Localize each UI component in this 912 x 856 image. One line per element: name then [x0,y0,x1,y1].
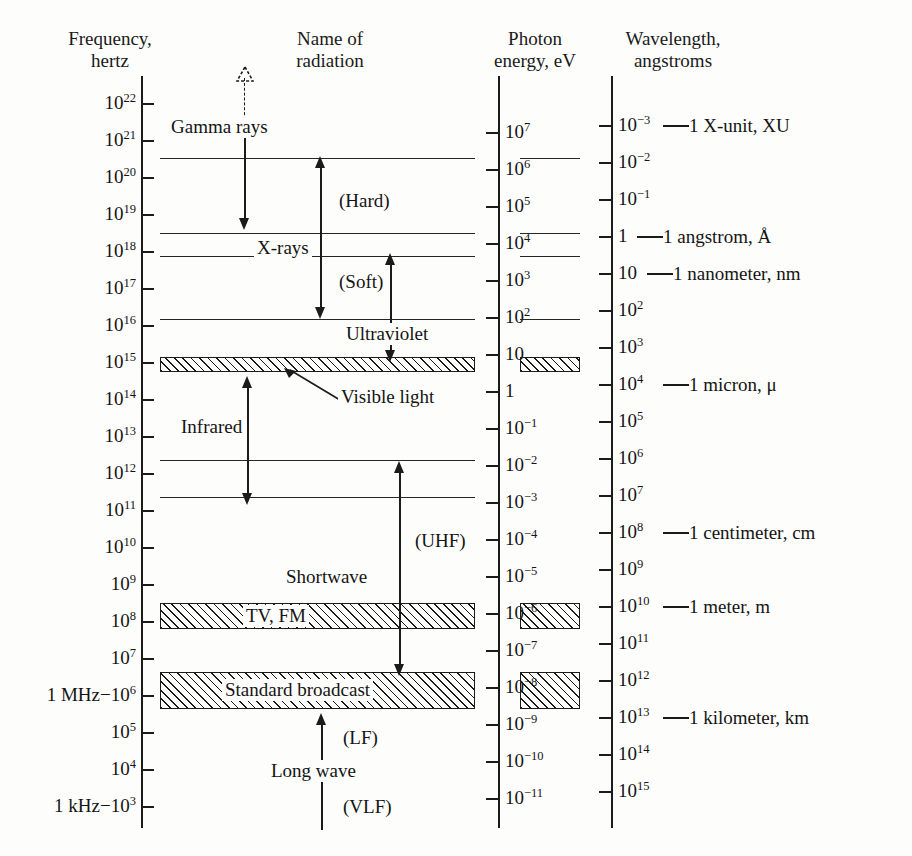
frequency-tick [141,325,154,327]
wavelength-unit-dash [663,384,689,385]
band-tv-fm [160,603,475,629]
frequency-tick-label: 1019 [16,204,136,223]
shortwave-arrow-down-head [394,664,404,676]
wavelength-tick [599,569,613,571]
uv-arrow-down-head [385,350,395,362]
header-frequency-line2: hertz [30,50,190,72]
wavelength-tick-label: 106 [618,448,643,467]
label-uhf: (UHF) [412,530,469,552]
wavelength-tick-label: 10−1 [618,189,650,208]
photon-tick-label: 1 [505,381,515,400]
frequency-tick [141,806,154,808]
wavelength-tick-label: 1012 [618,670,650,689]
frequency-tick [141,584,154,586]
frequency-tick [141,140,154,142]
label-xrays: X-rays [254,237,312,259]
wavelength-tick [599,273,613,275]
frequency-tick-label: 105 [16,722,136,741]
label-infrared: Infrared [178,416,245,438]
label-standard-broadcast: Standard broadcast [222,679,373,701]
wavelength-tick [599,532,613,534]
wavelength-tick [599,643,613,645]
photon-tick-label: 104 [505,233,530,252]
wavelength-unit-label: 1 kilometer, km [689,707,809,729]
photon-stub-hard-soft [520,233,580,234]
frequency-tick-label: 1016 [16,315,136,334]
header-wavelength-line1: Wavelength, [588,28,758,50]
gamma-open-arrowhead [236,66,254,82]
wavelength-unit-label: 1 X-unit, XU [689,115,790,137]
frequency-tick-label: 109 [16,574,136,593]
wavelength-tick [599,125,613,127]
photon-axis-line [498,76,500,828]
soft-arrow-down-head [315,307,325,319]
photon-tick [486,798,500,800]
spectrum-figure: Frequency, hertz Name of radiation Photo… [0,0,912,856]
frequency-tick [141,658,154,660]
photon-tick-label: 10−7 [505,640,537,659]
gamma-dashed-line [244,78,245,120]
photon-stub-xray-uv [520,256,580,257]
wavelength-unit-dash [663,717,689,718]
wavelength-tick-label: 109 [618,559,643,578]
header-name-line2: radiation [250,50,410,72]
photon-tick-label: 10−5 [505,566,537,585]
header-wavelength: Wavelength, angstroms [588,28,758,73]
longwave-arrow-up-head [316,713,326,725]
hard-arrow-line [320,165,322,235]
wavelength-tick [599,458,613,460]
label-hard: (Hard) [336,190,393,212]
label-shortwave: Shortwave [283,566,370,588]
gamma-down-arrowhead [239,218,249,230]
photon-tick [486,539,500,541]
divider-ir-top [160,460,475,461]
frequency-tick-label: 1010 [16,537,136,556]
hard-arrow-up-head [315,156,325,168]
photon-tick [486,391,500,393]
label-ultraviolet: Ultraviolet [343,323,431,345]
frequency-tick [141,251,154,253]
label-lf: (LF) [340,727,381,749]
photon-tick-label: 10−10 [505,751,544,770]
frequency-tick [141,695,154,697]
header-frequency-line1: Frequency, [30,28,190,50]
frequency-tick-label: 108 [16,611,136,630]
frequency-tick [141,288,154,290]
photon-tick [486,169,500,171]
photon-tick-label: 105 [505,196,530,215]
frequency-tick-label: 104 [16,759,136,778]
photon-tick [486,724,500,726]
divider-ir-bottom [160,497,475,498]
wavelength-unit-dash [663,532,689,533]
wavelength-tick-label: 108 [618,522,643,541]
band-visible-light-photon [520,357,580,372]
frequency-tick [141,732,154,734]
photon-tick [486,613,500,615]
wavelength-tick [599,680,613,682]
shortwave-arrow-line [399,470,401,668]
photon-stub-soft-uv [520,319,580,320]
frequency-tick-label: 1 kHz−103 [16,796,136,815]
wavelength-tick [599,421,613,423]
wavelength-tick [599,310,613,312]
photon-tick [486,576,500,578]
frequency-tick-label: 107 [16,648,136,667]
frequency-tick-label: 1021 [16,130,136,149]
frequency-tick [141,473,154,475]
wavelength-tick-label: 105 [618,411,643,430]
photon-tick-label: 107 [505,122,530,141]
gamma-down-line [244,128,246,220]
wavelength-tick-label: 10−2 [618,152,650,171]
photon-tick [486,243,500,245]
shortwave-arrow-up-head [394,461,404,473]
frequency-tick [141,362,154,364]
frequency-tick-label: 1017 [16,278,136,297]
band-standard-broadcast-photon [520,672,580,709]
band-tv-fm-photon [520,603,580,629]
wavelength-unit-label: 1 angstrom, Å [663,226,771,248]
photon-tick-label: 102 [505,307,530,326]
photon-tick-label: 106 [505,159,530,178]
frequency-tick-label: 1 MHz−106 [16,685,136,704]
wavelength-tick [599,791,613,793]
wavelength-unit-label: 1 meter, m [689,596,770,618]
